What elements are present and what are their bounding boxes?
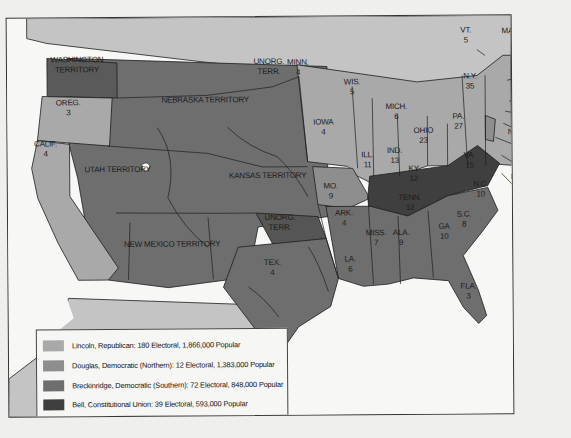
region-label-n-j: N.J.4 [508, 127, 515, 147]
legend-label-bell: Bell, Constitutional Union: 39 Electoral… [72, 399, 248, 409]
region-label-maine: MAINE8 [502, 26, 515, 46]
region-label-fla: FLA.3 [460, 281, 476, 301]
region-label-minn: MINN.4 [287, 58, 309, 78]
region-label-mich: MICH.6 [385, 102, 407, 122]
region-label-unorg-terr-north: UNORG.TERR. [253, 57, 284, 77]
region-label-kansas-territory: KANSAS TERRITORY [229, 171, 306, 182]
legend-swatch-bell [43, 399, 64, 410]
legend-item-lincoln: Lincoln, Republican: 180 Electoral, 1,86… [43, 337, 240, 352]
region-label-iowa: IOWA4 [313, 117, 333, 137]
region-label-utah-territory: UTAH TERRITORY [84, 165, 150, 175]
region-label-n-y: N.Y.35 [463, 71, 477, 91]
legend-swatch-douglas [43, 360, 64, 371]
region-label-s-c: S.C.8 [457, 210, 472, 230]
region-label-nebraska-territory: NEBRASKA TERRITORY [161, 95, 249, 106]
region-label-ill: ILL.11 [361, 150, 374, 170]
legend-item-breckinridge: Breckinridge, Democratic (Southern): 72 … [43, 377, 283, 393]
region-label-tex: TEX.4 [264, 258, 281, 278]
legend-item-douglas: Douglas, Democratic (Northern): 12 Elect… [43, 357, 275, 373]
region-label-mo: MO.9 [324, 181, 339, 201]
region-label-ind: IND.13 [387, 146, 402, 166]
region-label-tenn: TENN.12 [398, 193, 421, 213]
region-label-ark: ARK.4 [335, 208, 353, 228]
region-label-n-c: N.C.10 [473, 179, 488, 199]
region-label-va: VA.15 [464, 150, 476, 170]
region-label-pa: PA.27 [452, 112, 464, 132]
region-label-calif: CALIF.4 [34, 139, 57, 159]
legend-item-bell: Bell, Constitutional Union: 39 Electoral… [43, 396, 248, 411]
legend-swatch-breckinridge [43, 380, 64, 391]
region-label-ohio: OHIO23 [414, 126, 434, 146]
legend-label-douglas: Douglas, Democratic (Northern): 12 Elect… [72, 359, 275, 369]
region-label-miss: MISS.7 [366, 228, 387, 248]
region-label-washington-territory: WASHINGTONTERRITORY [51, 55, 104, 75]
region-label-md: MD.8 [511, 172, 515, 192]
state-new-jersey [485, 115, 495, 141]
region-label-ala: ALA.9 [393, 228, 410, 248]
legend-label-lincoln: Lincoln, Republican: 180 Electoral, 1,86… [72, 340, 240, 350]
region-label-oreg: OREG.3 [56, 98, 81, 118]
map-legend: Lincoln, Republican: 180 Electoral, 1,86… [36, 328, 289, 418]
region-label-ky: KY12 [408, 164, 418, 184]
region-label-la: LA.6 [345, 254, 357, 274]
legend-swatch-lincoln [43, 340, 64, 351]
region-label-unorg-terr-south: UNORG.TERR. [265, 213, 296, 233]
legend-label-breckinridge: Breckinridge, Democratic (Southern): 72 … [72, 379, 283, 389]
region-label-new-mexico-territory: NEW MEXICO TERRITORY [124, 239, 221, 250]
region-label-vt: VT.5 [460, 26, 471, 46]
region-label-ga: GA10 [438, 222, 449, 242]
map-frame: WASHINGTONTERRITORYOREG.3CALIF.4UTAH TER… [6, 14, 515, 418]
region-label-wis: WIS.5 [344, 77, 361, 97]
